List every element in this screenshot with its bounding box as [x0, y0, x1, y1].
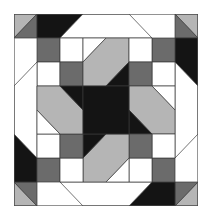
dark-square-a-q3: [37, 158, 60, 182]
star-black-center: [83, 86, 129, 134]
white-square-a-q1: [152, 62, 175, 86]
white-square-b-q3: [60, 158, 83, 182]
dark-square-b-q2: [129, 134, 152, 158]
dark-square-a-q1: [152, 38, 175, 62]
quilt-pieces: [14, 14, 198, 206]
white-square-b-q2: [152, 134, 175, 158]
dark-square-a-q0: [37, 38, 60, 62]
white-square-a-q2: [129, 158, 152, 182]
dark-square-a-q2: [152, 158, 175, 182]
white-square-b-q1: [129, 38, 152, 62]
white-square-a-q3: [37, 134, 60, 158]
dark-square-b-q0: [60, 62, 83, 86]
dark-square-b-q1: [129, 62, 152, 86]
white-square-a-q0: [60, 38, 83, 62]
white-square-b-q0: [37, 62, 60, 86]
quilt-block: [14, 14, 198, 206]
dark-square-b-q3: [60, 134, 83, 158]
